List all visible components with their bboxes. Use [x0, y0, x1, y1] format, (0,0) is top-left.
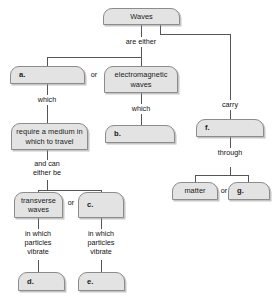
- node-electromagnetic-waves[interactable]: electromagnetic waves: [104, 66, 178, 93]
- concept-map-diagram: Waves a. electromagnetic waves require a…: [0, 0, 272, 305]
- node-d-label: d.: [24, 277, 37, 286]
- or-label-right: or: [218, 187, 230, 196]
- node-c-label: c.: [84, 200, 96, 209]
- node-require-medium[interactable]: require a medium in which to travel: [11, 123, 88, 150]
- node-g-blank[interactable]: g.: [228, 182, 270, 200]
- node-b-label: b.: [111, 129, 124, 138]
- node-waves-label: Waves: [127, 12, 156, 21]
- connector-label-which-middle: which: [116, 105, 166, 114]
- node-transverse-waves[interactable]: transverse waves: [14, 192, 63, 218]
- node-matter[interactable]: matter: [172, 182, 218, 200]
- node-a-blank[interactable]: a.: [10, 66, 85, 84]
- node-f-blank[interactable]: f.: [196, 119, 264, 137]
- node-c-blank[interactable]: c.: [78, 192, 124, 218]
- connector-label-which-left: which: [22, 96, 72, 105]
- node-f-label: f.: [202, 123, 213, 132]
- connector-label-through: through: [205, 149, 255, 158]
- node-electromagnetic-waves-label: electromagnetic waves: [105, 70, 177, 88]
- node-e-blank[interactable]: e.: [78, 272, 125, 291]
- node-g-label: g.: [234, 186, 247, 195]
- node-e-label: e.: [84, 277, 96, 286]
- connector-label-vibrate-right: in which particles vibrate: [71, 230, 131, 256]
- node-a-label: a.: [16, 70, 28, 79]
- connector-label-and-can-either-be: and can either be: [17, 160, 77, 178]
- node-matter-label: matter: [181, 186, 208, 195]
- node-transverse-waves-label: transverse waves: [15, 196, 62, 214]
- connector-label-vibrate-left: in which particles vibrate: [8, 230, 68, 256]
- node-d-blank[interactable]: d.: [18, 272, 65, 291]
- connector-label-are-either: are either: [111, 38, 171, 47]
- connector-label-carry: carry: [205, 101, 255, 110]
- or-label-top: or: [85, 71, 103, 80]
- node-b-blank[interactable]: b.: [105, 125, 175, 143]
- or-label-middle: or: [63, 199, 79, 208]
- node-waves[interactable]: Waves: [103, 8, 180, 25]
- node-require-medium-label: require a medium in which to travel: [12, 127, 87, 145]
